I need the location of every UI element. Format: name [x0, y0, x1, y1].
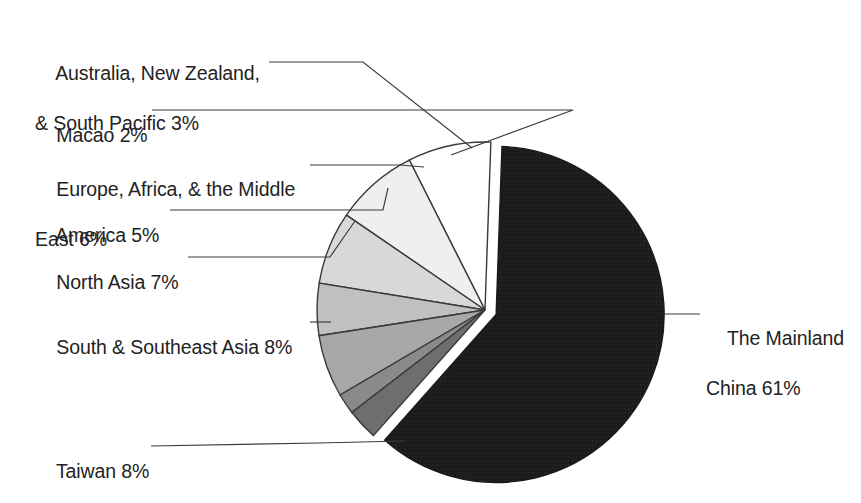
label-mainland-china-line1: The Mainland	[727, 327, 844, 349]
label-europe-line1: Europe, Africa, & the Middle	[56, 178, 295, 200]
label-mainland-china: The Mainland China 61%	[706, 301, 844, 451]
pie-slices	[317, 142, 664, 482]
label-macao-line1: Macao 2%	[56, 124, 147, 146]
label-north-asia: North Asia 7%	[35, 245, 179, 320]
label-america-line1: America 5%	[55, 224, 159, 246]
label-mainland-china-line2: China 61%	[706, 376, 844, 401]
label-australia-line1: Australia, New Zealand,	[55, 62, 260, 84]
label-north-asia-line1: North Asia 7%	[56, 271, 178, 293]
label-south-southeast-asia-line1: South & Southeast Asia 8%	[56, 336, 292, 358]
label-taiwan-line1: Taiwan 8%	[56, 460, 149, 482]
label-taiwan: Taiwan 8%	[35, 434, 149, 503]
leader-line-australia	[269, 62, 472, 148]
label-south-southeast-asia: South & Southeast Asia 8%	[35, 310, 292, 385]
pie-chart-figure: Australia, New Zealand, & South Pacific …	[0, 0, 861, 503]
leader-line-taiwan	[151, 441, 404, 446]
